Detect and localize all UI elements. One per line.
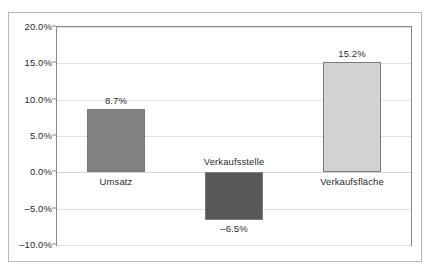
bar[interactable] — [323, 62, 381, 172]
bar-value-label: –6.5% — [220, 223, 247, 234]
bar-value-label: 15.2% — [338, 48, 365, 59]
bars-layer: 8.7%Umsatz–6.5%Verkaufsstelle15.2%Verkau… — [57, 27, 411, 245]
bar-category-label: Verkaufsstelle — [204, 156, 265, 167]
cropped-text-remnant — [0, 0, 430, 7]
bar-value-label: 8.7% — [105, 95, 127, 106]
y-axis-tick-label: –5.0% — [25, 202, 52, 213]
y-axis-tick-label: 15.0% — [25, 57, 52, 68]
y-axis-tick-label: 20.0% — [25, 21, 52, 32]
y-axis-tick-column: 20.0%15.0%10.0%5.0%0.0%–5.0%–10.0% — [9, 26, 52, 246]
y-axis-tick-label: 5.0% — [30, 130, 52, 141]
bar[interactable] — [205, 172, 263, 219]
bar-category-label: Umsatz — [100, 176, 133, 187]
chart-plot-area: 8.7%Umsatz–6.5%Verkaufsstelle15.2%Verkau… — [56, 26, 412, 246]
y-axis-tick-label: 10.0% — [25, 93, 52, 104]
bar-category-label: Verkaufsfläche — [320, 176, 384, 187]
y-axis-tick-label: 0.0% — [30, 166, 52, 177]
bar[interactable] — [87, 109, 145, 172]
y-axis-tick-label: –10.0% — [19, 239, 52, 250]
chart-figure-frame: 20.0%15.0%10.0%5.0%0.0%–5.0%–10.0% 8.7%U… — [8, 12, 422, 262]
gridline — [57, 245, 411, 246]
